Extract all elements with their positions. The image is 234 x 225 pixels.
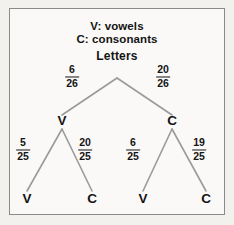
edge-fraction-leaf4: 19 25 xyxy=(192,137,206,162)
probability-tree-diagram-screenshot: V: vowels C: consonants Letters 6 26 20 … xyxy=(0,0,234,225)
tree-node-level1-vowel: V xyxy=(57,114,66,128)
legend-vowels-text: V: vowels xyxy=(90,21,143,33)
tree-node-leaf-vowel-consonant: C xyxy=(87,192,97,206)
fraction-denominator: 25 xyxy=(78,150,92,163)
tree-node-leaf-vowel-vowel: V xyxy=(22,192,31,206)
fraction-numerator: 20 xyxy=(78,137,92,149)
fraction-numerator: 5 xyxy=(16,137,30,149)
fraction-denominator: 25 xyxy=(126,150,140,163)
tree-node-level1-consonant: C xyxy=(167,114,177,128)
fraction-numerator: 6 xyxy=(65,64,79,76)
fraction-denominator: 26 xyxy=(156,77,170,90)
edge-fraction-leaf3: 6 25 xyxy=(126,137,140,162)
fraction-numerator: 20 xyxy=(156,64,170,76)
tree-node-leaf-consonant-consonant: C xyxy=(201,192,211,206)
tree-node-root: Letters xyxy=(96,50,137,62)
fraction-numerator: 6 xyxy=(126,137,140,149)
edge-fraction-leaf2: 20 25 xyxy=(78,137,92,162)
edge-fraction-leaf1: 5 25 xyxy=(16,137,30,162)
fraction-denominator: 25 xyxy=(192,150,206,163)
fraction-denominator: 26 xyxy=(65,77,79,90)
edge-fraction-root-right: 20 26 xyxy=(156,64,170,89)
edge-fraction-root-left: 6 26 xyxy=(65,64,79,89)
legend-consonants-text: C: consonants xyxy=(76,34,157,46)
fraction-denominator: 25 xyxy=(16,150,30,163)
tree-node-leaf-consonant-vowel: V xyxy=(138,192,147,206)
branch-v-to-leaf1 xyxy=(27,129,62,191)
branch-c-to-leaf3 xyxy=(143,129,172,191)
fraction-numerator: 19 xyxy=(192,137,206,149)
